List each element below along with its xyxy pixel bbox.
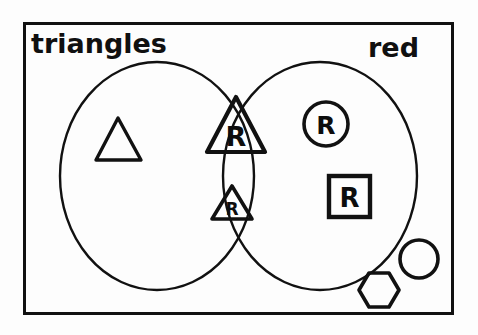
letter-r-label: R: [316, 111, 335, 140]
letter-r-label: R: [225, 199, 238, 219]
letter-r-label: R: [226, 121, 247, 152]
red-triangle-small[interactable]: R: [212, 186, 252, 219]
set-circle-red[interactable]: [223, 62, 417, 290]
hexagon-outline: [359, 273, 399, 307]
red-square[interactable]: R: [329, 176, 370, 217]
red-circle[interactable]: R: [304, 102, 348, 146]
universal-set-rectangle: [25, 24, 453, 314]
triangle-outline: [96, 118, 141, 160]
venn-diagram-scene: triangles red R R R R: [0, 0, 478, 335]
set-circle-triangles[interactable]: [60, 62, 254, 290]
plain-triangle[interactable]: [96, 118, 141, 160]
venn-diagram-canvas: triangles red R R R R: [0, 0, 478, 335]
plain-hexagon[interactable]: [359, 273, 399, 307]
set-label-red: red: [368, 32, 419, 63]
plain-circle[interactable]: [400, 240, 438, 278]
set-label-triangles: triangles: [31, 28, 167, 59]
circle-outline: [400, 240, 438, 278]
red-triangle-large[interactable]: R: [207, 97, 265, 152]
letter-r-label: R: [339, 183, 359, 213]
